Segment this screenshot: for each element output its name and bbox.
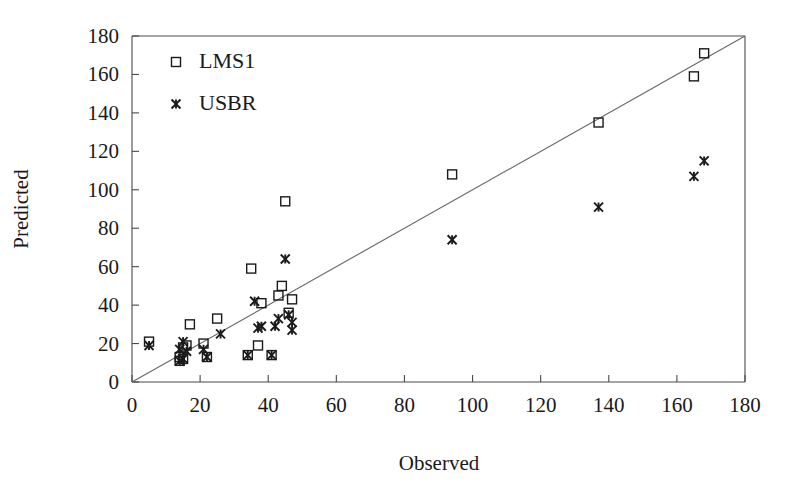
x-tick-label-120: 120 bbox=[525, 393, 557, 417]
x-tick-label-180: 180 bbox=[729, 393, 761, 417]
x-tick-label-0: 0 bbox=[127, 393, 138, 417]
y-tick-label-0: 0 bbox=[109, 370, 120, 394]
x-tick-label-100: 100 bbox=[457, 393, 489, 417]
legend-label-lms1: LMS1 bbox=[199, 48, 255, 73]
legend-label-usbr: USBR bbox=[199, 90, 257, 115]
x-tick-label-20: 20 bbox=[190, 393, 211, 417]
y-tick-label-20: 20 bbox=[98, 332, 119, 356]
x-tick-label-160: 160 bbox=[661, 393, 693, 417]
x-axis-title: Observed bbox=[399, 451, 480, 475]
y-tick-label-80: 80 bbox=[98, 216, 119, 240]
chart-canvas: 020406080100120140160180 020406080100120… bbox=[0, 0, 797, 489]
y-tick-label-160: 160 bbox=[88, 62, 120, 86]
x-tick-label-40: 40 bbox=[258, 393, 279, 417]
y-tick-label-40: 40 bbox=[98, 293, 119, 317]
y-tick-label-100: 100 bbox=[88, 178, 120, 202]
y-tick-label-60: 60 bbox=[98, 255, 119, 279]
x-tick-label-80: 80 bbox=[394, 393, 415, 417]
scatter-plot-figure: 020406080100120140160180 020406080100120… bbox=[0, 0, 797, 489]
x-tick-label-140: 140 bbox=[593, 393, 625, 417]
y-tick-label-180: 180 bbox=[88, 24, 120, 48]
x-tick-label-60: 60 bbox=[326, 393, 347, 417]
y-tick-label-140: 140 bbox=[88, 101, 120, 125]
y-tick-label-120: 120 bbox=[88, 139, 120, 163]
y-axis-title: Predicted bbox=[9, 169, 33, 249]
